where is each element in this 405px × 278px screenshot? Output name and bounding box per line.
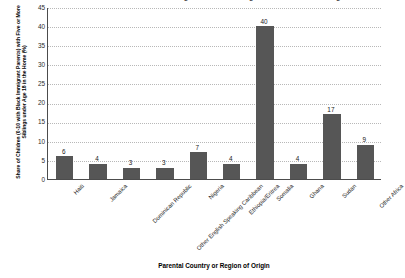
bar [56,156,73,179]
bar-value-label: 40 [250,19,278,25]
y-axis-tick-label: 45 [19,5,45,11]
x-axis-tick-label: Nigeria [208,183,226,201]
bar-value-label: 7 [183,145,211,151]
x-axis-tick-label: Haiti [72,183,85,196]
y-axis-tick-label: 40 [19,24,45,30]
bar [256,26,273,179]
chart-title: Share of Children with Black Immigrant P… [28,0,384,1]
bar-value-label: 3 [150,160,178,166]
y-axis-tick-label: 25 [19,81,45,87]
y-axis-tick-label: 35 [19,43,45,49]
gridline [48,46,381,47]
bar-value-label: 4 [217,156,245,162]
bar-value-label: 4 [83,156,111,162]
gridline [48,104,381,105]
bar-value-label: 3 [117,160,145,166]
y-axis-tick-label: 5 [19,158,45,164]
y-axis-tick-label: 30 [19,62,45,68]
gridline [48,84,381,85]
x-axis-tick-label: Dominican Republic [151,183,193,225]
x-axis-tick-label: Ghana [308,183,325,200]
plot-area [47,8,381,180]
x-axis-label: Parental Country or Region of Origin [47,262,381,269]
bar [89,164,106,179]
bar [223,164,240,179]
bar [323,114,340,179]
x-axis-tick-label: Sudan [341,183,358,200]
bar [357,145,374,179]
gridline [48,27,381,28]
bar [290,164,307,179]
bar-value-label: 6 [50,149,78,155]
x-axis-tick-label: Other Africa [378,183,405,210]
y-axis-label-container: Share of Children (0-10 with Black Immig… [0,0,18,186]
bar [123,168,140,179]
y-axis-tick-label: 15 [19,119,45,125]
gridline [48,8,381,9]
bar [156,168,173,179]
y-axis-tick-label: 0 [19,177,45,183]
bar-value-label: 4 [284,156,312,162]
y-axis-tick-label: 20 [19,100,45,106]
x-axis-tick-label: Jamaica [109,183,129,203]
bar [190,152,207,179]
gridline [48,65,381,66]
bar-value-label: 9 [350,137,378,143]
y-axis-tick-label: 10 [19,139,45,145]
bar-value-label: 17 [317,107,345,113]
x-axis-tick-label: Other English Speaking Caribbean [195,183,264,252]
